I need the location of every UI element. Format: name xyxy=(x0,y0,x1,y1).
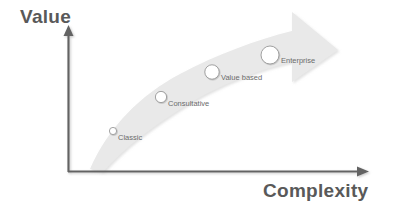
node-label-value-based: Value based xyxy=(221,73,262,82)
node-circle-consultative xyxy=(155,91,166,102)
node-circle-classic xyxy=(109,127,116,134)
value-complexity-diagram: Value Complexity Classic Consultative Va… xyxy=(0,0,410,209)
growth-curve-arrow xyxy=(90,12,338,172)
node-label-enterprise: Enterprise xyxy=(281,56,315,65)
node-label-classic: Classic xyxy=(118,133,142,142)
x-axis-title: Complexity xyxy=(263,180,368,202)
y-axis-title: Value xyxy=(20,6,71,28)
node-circle-enterprise xyxy=(261,46,279,64)
y-axis xyxy=(64,25,74,172)
node-label-consultative: Consultative xyxy=(168,99,209,108)
node-circle-value-based xyxy=(205,65,219,79)
x-axis xyxy=(68,167,369,177)
